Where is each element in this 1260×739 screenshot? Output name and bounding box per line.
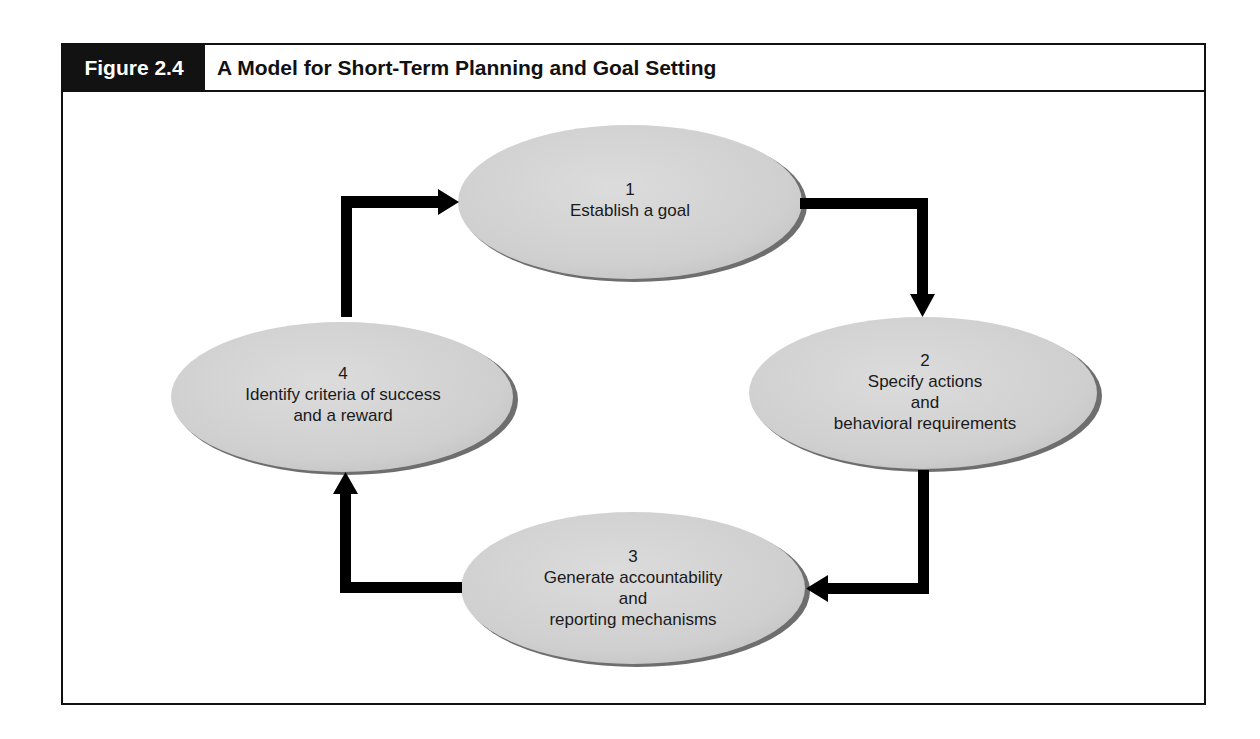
arrow-2-to-3 bbox=[806, 470, 929, 602]
arrow-3-to-4 bbox=[333, 472, 462, 593]
node-4-text-line-1: Identify criteria of success bbox=[245, 384, 441, 405]
arrow-4-to-1 bbox=[341, 189, 459, 317]
node-4-text-line-2: and a reward bbox=[293, 405, 392, 426]
node-3-text-line-2: and bbox=[619, 588, 647, 609]
node-2-text-line-2: and bbox=[911, 392, 939, 413]
node-3-number: 3 bbox=[628, 546, 637, 567]
node-2-text-line-3: behavioral requirements bbox=[834, 413, 1016, 434]
node-2-number: 2 bbox=[920, 350, 929, 371]
node-2-label: 2 Specify actions and behavioral require… bbox=[760, 332, 1090, 452]
node-4-number: 4 bbox=[338, 363, 347, 384]
node-3-label: 3 Generate accountability and reporting … bbox=[470, 528, 796, 648]
node-3-text-line-1: Generate accountability bbox=[544, 567, 723, 588]
node-2-text-line-1: Specify actions bbox=[868, 371, 982, 392]
arrow-1-to-2 bbox=[800, 198, 935, 317]
node-3-text-line-3: reporting mechanisms bbox=[549, 609, 716, 630]
node-1-text-line-1: Establish a goal bbox=[570, 200, 690, 221]
node-4-label: 4 Identify criteria of success and a rew… bbox=[180, 344, 506, 444]
node-1-label: 1 Establish a goal bbox=[470, 150, 790, 250]
node-1-number: 1 bbox=[625, 179, 634, 200]
